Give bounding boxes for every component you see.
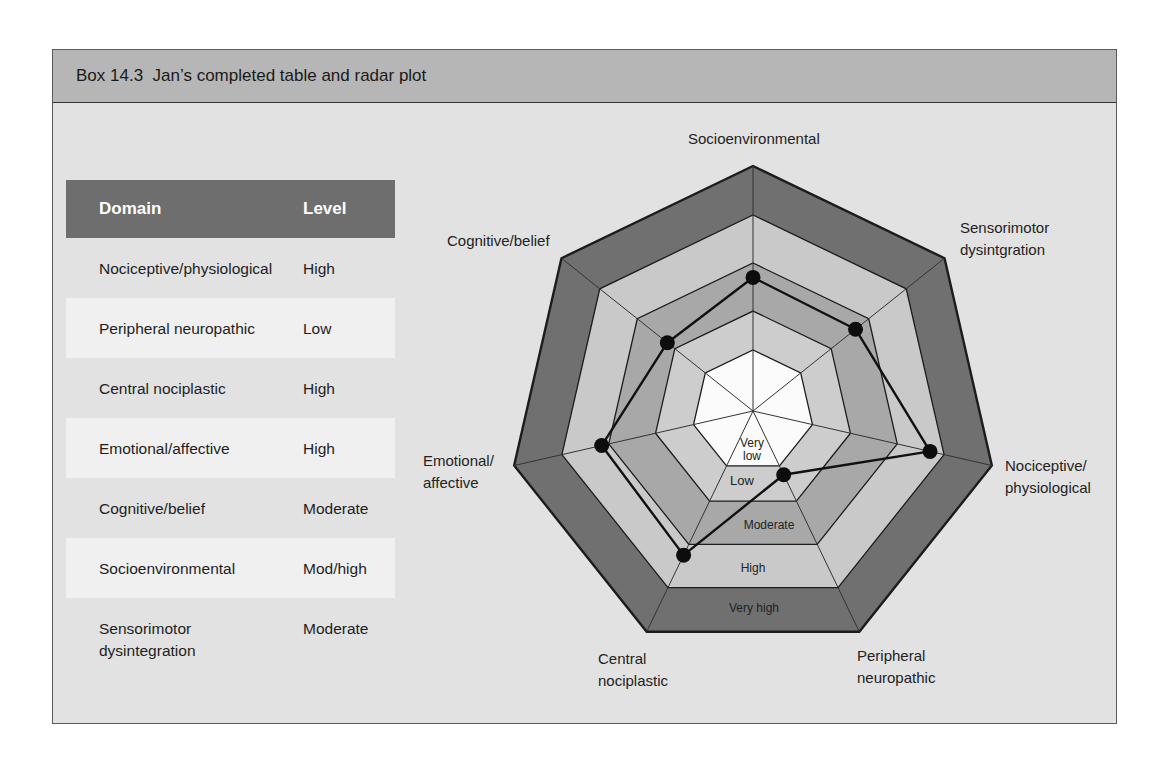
data-point	[676, 548, 691, 563]
axis-label-peripheral: Peripheral neuropathic	[857, 645, 935, 689]
data-point	[923, 444, 938, 459]
data-point	[594, 438, 609, 453]
axis-label-cognitive: Cognitive/belief	[447, 230, 550, 252]
level-label-moderate: Moderate	[734, 519, 804, 532]
axis-label-sensorimotor: Sensorimotor dysintgration	[960, 217, 1049, 261]
level-label-very-high: Very high	[714, 602, 794, 615]
radar-plot	[0, 0, 1174, 767]
axis-label-central: Central nociplastic	[598, 648, 668, 692]
axis-label-socioenvironmental: Socioenvironmental	[688, 128, 820, 150]
axis-label-nociceptive: Nociceptive/ physiological	[1005, 455, 1091, 499]
level-label-low: Low	[722, 473, 762, 488]
data-point	[848, 322, 863, 337]
level-label-high: High	[723, 562, 783, 575]
data-point	[660, 335, 675, 350]
level-label-very-low: Very low	[736, 437, 768, 463]
data-point	[746, 270, 761, 285]
axis-label-emotional: Emotional/ affective	[423, 450, 494, 494]
data-point	[776, 467, 791, 482]
